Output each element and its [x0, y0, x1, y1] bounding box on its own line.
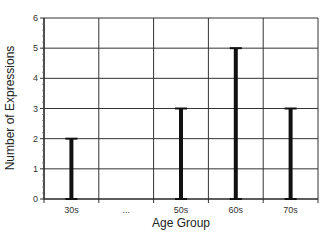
- y-tick-label: 3: [33, 104, 38, 114]
- y-tick-label: 6: [33, 13, 38, 23]
- x-tick-label: 30s: [64, 205, 79, 215]
- bar: [175, 109, 187, 200]
- x-tick-label: 60s: [229, 205, 244, 215]
- y-axis-ticks: 0123456: [33, 13, 44, 204]
- y-tick-label: 0: [33, 194, 38, 204]
- bar: [285, 109, 297, 200]
- x-tick-label: 70s: [283, 205, 298, 215]
- x-tick-label: 50s: [174, 205, 189, 215]
- bars: [65, 48, 296, 199]
- y-axis-title: Number of Expressions: [3, 46, 17, 171]
- bar-chart: 0123456 30s...50s60s70s Age Group Number…: [0, 0, 331, 244]
- y-tick-label: 5: [33, 43, 38, 53]
- x-axis-title: Age Group: [152, 216, 210, 230]
- x-axis-ticks: 30s...50s60s70s: [64, 205, 298, 215]
- bar: [230, 48, 242, 199]
- x-tick-label: ...: [122, 205, 130, 215]
- y-tick-label: 1: [33, 164, 38, 174]
- y-tick-label: 2: [33, 134, 38, 144]
- y-tick-label: 4: [33, 73, 38, 83]
